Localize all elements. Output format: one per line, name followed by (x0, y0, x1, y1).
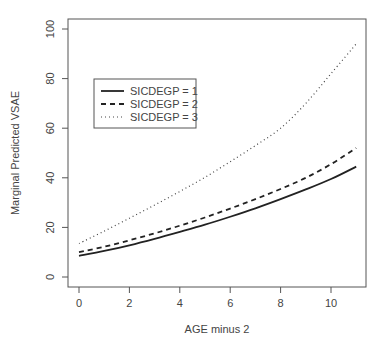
x-tick-label: 8 (278, 297, 284, 309)
x-tick-label: 10 (325, 297, 337, 309)
plot-area-frame (68, 19, 366, 287)
y-axis-label: Marginal Predicted VSAE (9, 91, 21, 215)
x-axis: 0246810 (76, 287, 337, 309)
series-line-1 (79, 167, 356, 256)
y-axis: 020406080100 (44, 20, 68, 280)
series-line-2 (79, 148, 356, 252)
legend-label-2: SICDEGP = 2 (130, 98, 198, 110)
legend-label-3: SICDEGP = 3 (130, 111, 198, 123)
legend: SICDEGP = 1 SICDEGP = 2 SICDEGP = 3 (94, 79, 198, 128)
data-lines (79, 44, 356, 256)
y-tick-label: 60 (44, 122, 56, 134)
legend-label-1: SICDEGP = 1 (130, 85, 198, 97)
x-tick-label: 6 (227, 297, 233, 309)
y-tick-label: 20 (44, 221, 56, 233)
chart: 020406080100 0246810 AGE minus 2 Margina… (0, 0, 385, 352)
x-axis-label: AGE minus 2 (185, 323, 250, 335)
x-tick-label: 0 (76, 297, 82, 309)
y-tick-label: 100 (44, 20, 56, 38)
x-tick-label: 4 (177, 297, 183, 309)
y-tick-label: 40 (44, 172, 56, 184)
y-tick-label: 0 (44, 274, 56, 280)
x-tick-label: 2 (126, 297, 132, 309)
y-tick-label: 80 (44, 72, 56, 84)
series-line-3 (79, 44, 356, 244)
